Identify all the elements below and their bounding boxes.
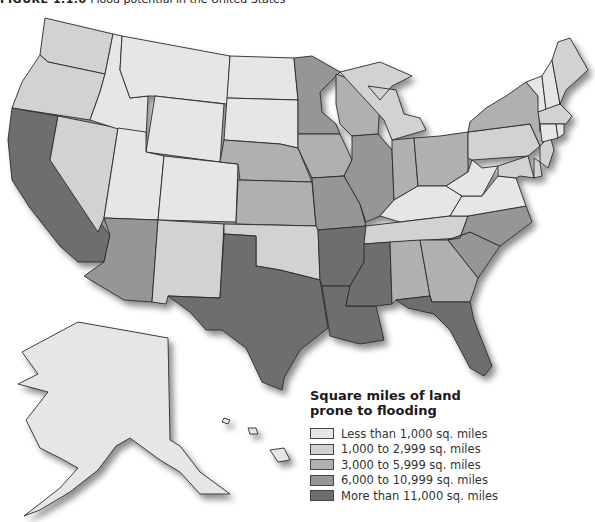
legend-title: Square miles of land prone to flooding bbox=[310, 388, 570, 418]
state-montana bbox=[120, 36, 230, 104]
legend-title-line2: prone to flooding bbox=[310, 403, 570, 418]
state-north-dakota bbox=[227, 56, 298, 100]
legend-label: More than 11,000 sq. miles bbox=[341, 489, 498, 503]
legend-label: 3,000 to 5,999 sq. miles bbox=[341, 458, 481, 472]
state-hawaii bbox=[270, 448, 290, 462]
legend-item: More than 11,000 sq. miles bbox=[310, 488, 570, 504]
legend-swatch bbox=[310, 475, 334, 486]
legend-label: 6,000 to 10,999 sq. miles bbox=[341, 473, 488, 487]
state-wyoming bbox=[146, 96, 224, 162]
state-kansas bbox=[236, 180, 316, 226]
legend-swatch bbox=[310, 459, 334, 470]
legend-label: Less than 1,000 sq. miles bbox=[341, 427, 488, 441]
legend-title-line1: Square miles of land bbox=[310, 388, 570, 403]
legend-item: 3,000 to 5,999 sq. miles bbox=[310, 457, 570, 473]
state-connecticut bbox=[540, 124, 558, 142]
state-minnesota bbox=[294, 56, 340, 134]
legend-item: 1,000 to 2,999 sq. miles bbox=[310, 442, 570, 458]
state-alaska bbox=[18, 322, 230, 516]
legend-swatch bbox=[310, 444, 334, 455]
state-florida bbox=[396, 296, 492, 376]
legend-item: Less than 1,000 sq. miles bbox=[310, 426, 570, 442]
legend-label: 1,000 to 2,999 sq. miles bbox=[341, 442, 481, 456]
state-new-mexico bbox=[152, 220, 224, 304]
state-maryland bbox=[498, 156, 534, 178]
state-colorado bbox=[158, 156, 238, 222]
legend-swatch bbox=[310, 490, 334, 501]
map-legend: Square miles of land prone to flooding L… bbox=[310, 388, 570, 504]
legend-swatch bbox=[310, 428, 334, 439]
legend-item: 6,000 to 10,999 sq. miles bbox=[310, 473, 570, 489]
state-hawaii-island-3 bbox=[222, 418, 230, 424]
state-hawaii-island-2 bbox=[248, 428, 258, 434]
